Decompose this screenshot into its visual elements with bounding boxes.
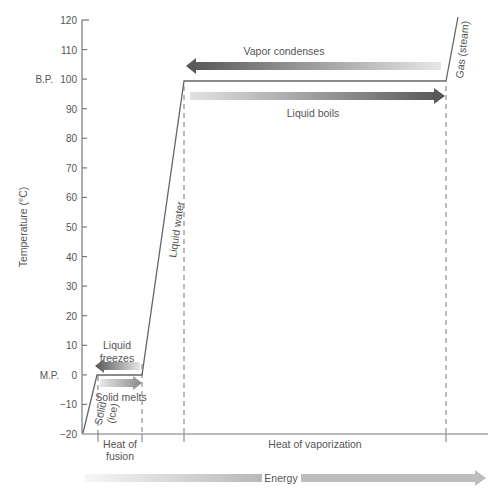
tick-80: 80 (66, 133, 78, 144)
tick-0: 0 (71, 370, 77, 381)
tick-30: 30 (66, 281, 78, 292)
tick-90: 90 (66, 104, 78, 115)
heat-of-fusion-label-2: fusion (106, 450, 134, 462)
solid-melts-arrow (100, 376, 142, 390)
bp-label: B.P. (35, 74, 53, 85)
liquid-water-label: Liquid water (166, 200, 186, 258)
liquid-freezes-label-1: Liquid (103, 339, 131, 351)
heat-of-fusion-label-1: Heat of (103, 438, 137, 450)
vapor-condenses-label: Vapor condenses (244, 45, 325, 57)
tick-100: 100 (60, 74, 77, 85)
tick-70: 70 (66, 163, 78, 174)
solid-melts-label: Solid melts (95, 391, 146, 403)
liquid-boils-label: Liquid boils (287, 107, 340, 119)
tick-minus-10: −10 (60, 399, 77, 410)
tick-60: 60 (66, 192, 78, 203)
tick-minus-20: −20 (60, 429, 77, 440)
tick-40: 40 (66, 252, 78, 263)
liquid-boils-arrow (190, 88, 445, 104)
vapor-condenses-arrow (186, 58, 441, 74)
energy-label: Energy (264, 472, 298, 484)
y-axis (82, 20, 89, 434)
heat-of-vaporization-label: Heat of vaporization (268, 438, 362, 450)
mp-label: M.P. (40, 370, 59, 381)
heating-curve-chart: 120 110 100 90 80 70 60 50 40 30 20 10 0… (0, 0, 494, 492)
tick-20: 20 (66, 311, 78, 322)
tick-50: 50 (66, 222, 78, 233)
heating-curve-line (83, 17, 458, 433)
tick-110: 110 (61, 45, 77, 56)
tick-120: 120 (60, 15, 77, 26)
tick-10: 10 (66, 340, 78, 351)
y-tick-labels: 120 110 100 90 80 70 60 50 40 30 20 10 0… (35, 15, 77, 440)
y-axis-title: Temperature (°C) (17, 187, 29, 268)
phase-boundary-dashes (98, 86, 446, 434)
